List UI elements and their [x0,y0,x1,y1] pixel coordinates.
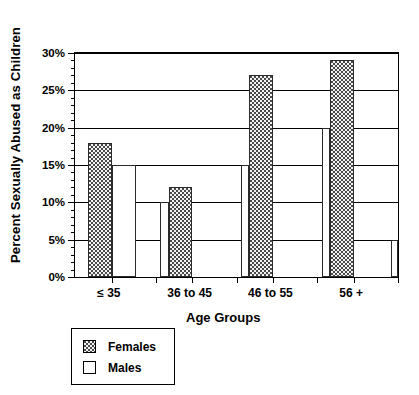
y-tick-label-5: 5% [48,234,65,246]
x-tick-inner-0 [112,277,113,283]
bar-female-0 [88,143,112,277]
x-tick-label-2: 46 to 55 [248,286,293,300]
y-minor-tick [71,195,75,196]
plot-area: 0%5%10%15%20%25%30%≤ 3536 to 4546 to 555… [74,52,399,278]
y-tick-label-25: 25% [42,84,65,96]
x-tick-inner-1 [192,277,193,283]
y-minor-tick [71,83,75,84]
bar-male-1 [160,202,168,277]
y-minor-tick [71,120,75,121]
y-minor-tick [71,75,75,76]
y-minor-tick [71,150,75,151]
bar-female-3 [330,60,354,277]
y-tick-label-30: 30% [42,47,65,59]
y-tick-25 [68,90,75,91]
y-minor-tick [71,255,75,256]
y-tick-label-20: 20% [42,122,65,134]
x-tick-inner-3 [354,277,355,283]
bar-chart-figure: Percent Sexually Abused as Children 0%5%… [0,0,419,395]
y-minor-tick [71,225,75,226]
y-minor-tick [71,68,75,69]
legend-item-males: Males [72,357,174,378]
y-minor-tick [71,135,75,136]
y-tick-10 [68,202,75,203]
y-minor-tick [71,217,75,218]
x-tick-0 [156,277,157,283]
x-tick-label-3: 56 + [339,286,363,300]
x-tick-inner-2 [273,277,274,283]
chart-legend: Females Males [71,328,175,385]
x-tick-label-0: ≤ 35 [97,286,120,300]
x-tick-3 [398,277,399,283]
bar-male-0 [112,165,136,277]
y-tick-label-10: 10% [42,196,65,208]
y-minor-tick [71,210,75,211]
y-minor-tick [71,113,75,114]
y-tick-label-15: 15% [42,159,65,171]
males-swatch-icon [83,361,96,374]
gridline-30 [75,53,398,54]
y-tick-label-0: 0% [48,271,65,283]
x-tick-2 [317,277,318,283]
y-minor-tick [71,98,75,99]
y-tick-0 [68,277,75,278]
x-axis-title: Age Groups [186,310,260,325]
y-minor-tick [71,172,75,173]
bar-male-3 [322,128,330,277]
y-minor-tick [71,60,75,61]
y-minor-tick [71,105,75,106]
legend-item-females: Females [72,336,174,357]
y-tick-30 [68,53,75,54]
y-minor-tick [71,247,75,248]
bar-male-2 [241,165,249,277]
females-swatch-icon [83,340,96,353]
y-tick-5 [68,240,75,241]
x-tick-label-1: 36 to 45 [167,286,212,300]
y-tick-20 [68,128,75,129]
bar-male-trailing [391,240,398,277]
y-minor-tick [71,187,75,188]
bar-female-1 [169,187,193,277]
x-tick-1 [237,277,238,283]
y-minor-tick [71,232,75,233]
y-minor-tick [71,158,75,159]
y-minor-tick [71,262,75,263]
y-minor-tick [71,270,75,271]
legend-label-males: Males [108,361,141,375]
y-axis-title: Percent Sexually Abused as Children [4,0,28,290]
bar-female-2 [249,75,273,277]
y-minor-tick [71,143,75,144]
y-minor-tick [71,180,75,181]
y-tick-15 [68,165,75,166]
legend-label-females: Females [108,340,156,354]
